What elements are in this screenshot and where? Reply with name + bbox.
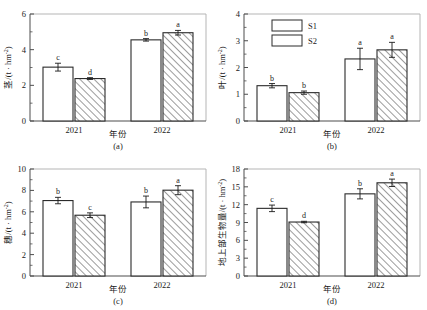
y-tick-label: 10 (18, 164, 27, 174)
bar-s1-2022 (345, 194, 375, 276)
bar-s1-2021 (43, 201, 73, 276)
panel-d: 0369121518cd2021ba2022年份(d)地上部生物量/(t · h… (214, 155, 427, 310)
y-tick-label: 15 (232, 182, 241, 192)
bar-s2-2022 (377, 183, 407, 276)
x-tick-label: 2021 (66, 125, 83, 135)
bar-s1-2022 (131, 40, 161, 121)
significance-letter: b (56, 187, 60, 196)
panel-c: 0246810bc2021ba2022年份(c)穗/(t · hm-2) (0, 155, 213, 310)
y-tick-label: 8 (22, 185, 26, 195)
significance-letter: c (270, 195, 274, 204)
y-tick-label: 3 (236, 36, 240, 46)
x-tick-label: 2022 (154, 280, 171, 290)
y-axis-title-text: 叶/(t · hm-2) (217, 46, 227, 89)
bar-s2-2022 (377, 50, 407, 121)
y-tick-label: 6 (236, 235, 240, 245)
y-tick-label: 1 (236, 89, 240, 99)
significance-letter: b (358, 179, 362, 188)
y-tick-label: 0 (22, 116, 26, 126)
significance-letter: a (390, 169, 394, 178)
y-axis-title-main: 茎/(t · hm (3, 54, 13, 89)
bar-s1-2022 (131, 202, 161, 276)
panel-tag: (c) (113, 296, 123, 306)
y-axis-title-close: ) (217, 179, 227, 182)
y-tick-label: 0 (22, 271, 26, 281)
x-axis-title: 年份 (323, 284, 341, 294)
y-axis-title: 茎/(t · hm-2) (3, 46, 13, 89)
y-tick-label: 4 (22, 228, 27, 238)
y-axis-title-close: ) (3, 46, 13, 49)
y-tick-label: 0 (236, 116, 240, 126)
bar-s2-2022 (163, 33, 193, 121)
y-axis-title: 地上部生物量/(t · hm-2) (217, 179, 227, 267)
y-axis-title-close: ) (217, 46, 227, 49)
x-tick-label: 2022 (154, 125, 171, 135)
panel-tag: (b) (327, 141, 337, 151)
x-tick-label: 2021 (280, 125, 297, 135)
significance-letter: c (56, 53, 60, 62)
y-tick-label: 2 (22, 80, 26, 90)
significance-letter: b (270, 74, 274, 83)
y-tick-label: 0 (236, 271, 240, 281)
significance-letter: d (88, 68, 92, 77)
bar-s2-2021 (289, 93, 319, 121)
significance-letter: a (176, 20, 180, 29)
y-axis-title: 叶/(t · hm-2) (217, 46, 227, 89)
panel-a: 0246cd2021ba2022年份(a)茎/(t · hm-2) (0, 0, 213, 155)
y-axis-title-text: 穗/(t · hm-2) (3, 201, 13, 244)
x-tick-label: 2022 (368, 125, 385, 135)
x-tick-label: 2022 (368, 280, 385, 290)
y-tick-label: 3 (236, 253, 240, 263)
y-tick-label: 4 (236, 9, 241, 19)
bar-s1-2021 (257, 86, 287, 121)
panel-b: 01234bb2021aa2022年份(b)叶/(t · hm-2)S1S2 (214, 0, 427, 155)
significance-letter: a (358, 38, 362, 47)
significance-letter: a (176, 176, 180, 185)
x-tick-label: 2021 (280, 280, 297, 290)
panel-b-plot: 01234bb2021aa2022年份(b)叶/(t · hm-2)S1S2 (214, 0, 427, 155)
bar-s1-2021 (257, 208, 287, 276)
bar-s2-2022 (163, 190, 193, 276)
legend-label-s1: S1 (308, 21, 317, 31)
y-tick-label: 6 (22, 207, 26, 217)
y-tick-label: 6 (22, 9, 26, 19)
y-axis-title-main: 穗/(t · hm (3, 209, 13, 244)
panel-c-plot: 0246810bc2021ba2022年份(c)穗/(t · hm-2) (0, 155, 213, 310)
y-tick-label: 12 (232, 200, 241, 210)
x-axis-title: 年份 (109, 284, 127, 294)
panel-tag: (a) (113, 141, 123, 151)
bar-s2-2021 (75, 215, 105, 276)
y-axis-title-close: ) (3, 201, 13, 204)
y-axis-title-main: 叶/(t · hm (217, 54, 227, 89)
bar-s2-2021 (289, 222, 319, 276)
y-tick-label: 2 (22, 250, 26, 260)
y-axis-title-text: 地上部生物量/(t · hm-2) (217, 179, 227, 267)
significance-letter: b (302, 81, 306, 90)
y-axis-title: 穗/(t · hm-2) (3, 201, 13, 244)
bar-s2-2021 (75, 79, 105, 121)
y-tick-label: 18 (232, 164, 241, 174)
panel-a-plot: 0246cd2021ba2022年份(a)茎/(t · hm-2) (0, 0, 213, 155)
significance-letter: a (390, 32, 394, 41)
y-tick-label: 4 (22, 45, 27, 55)
y-axis-title-main: 地上部生物量/(t · hm (217, 186, 227, 266)
panel-d-plot: 0369121518cd2021ba2022年份(d)地上部生物量/(t · h… (214, 155, 427, 310)
y-tick-label: 9 (236, 218, 240, 228)
bar-s1-2021 (43, 67, 73, 121)
panel-tag: (d) (327, 296, 337, 306)
legend-label-s2: S2 (308, 36, 317, 46)
y-axis-title-text: 茎/(t · hm-2) (3, 46, 13, 89)
significance-letter: b (144, 186, 148, 195)
significance-letter: c (88, 203, 92, 212)
significance-letter: b (144, 29, 148, 38)
x-axis-title: 年份 (109, 129, 127, 139)
significance-letter: d (302, 211, 306, 220)
x-axis-title: 年份 (323, 129, 341, 139)
x-tick-label: 2021 (66, 280, 83, 290)
figure-root: 0246cd2021ba2022年份(a)茎/(t · hm-2) 01234b… (0, 0, 427, 310)
legend-swatch-s2 (272, 35, 302, 46)
legend-swatch-s1 (272, 20, 302, 31)
y-tick-label: 2 (236, 63, 240, 73)
